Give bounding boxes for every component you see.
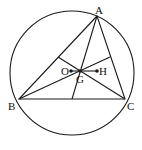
label-a: A — [95, 4, 103, 16]
cevian-from-b — [19, 57, 110, 99]
label-h: H — [99, 65, 107, 77]
cevian-from-c — [58, 57, 125, 99]
circumcircle — [10, 11, 134, 135]
point-o — [69, 69, 73, 73]
label-c: C — [127, 100, 134, 112]
label-g: G — [76, 73, 84, 85]
label-o: O — [61, 65, 69, 77]
euler-line-diagram: A B C O G H — [0, 0, 142, 150]
label-b: B — [8, 100, 15, 112]
median-from-a — [72, 16, 97, 99]
